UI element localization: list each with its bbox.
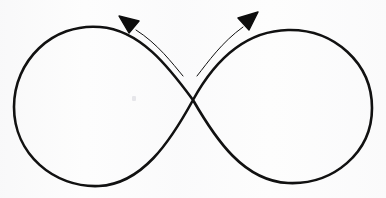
arrow-up-right-head-icon — [238, 12, 258, 30]
arrow-left-group — [119, 16, 183, 76]
infinity-diagram-svg — [0, 0, 386, 198]
lemniscate-group — [14, 27, 372, 186]
arrow-right-group — [197, 12, 258, 76]
paper-speck-artifact — [132, 96, 136, 101]
arrow-up-left-shaft — [136, 30, 183, 76]
arrow-up-right-shaft — [197, 27, 243, 76]
figure-canvas: A hand-drawn lemniscate (figure-eight / … — [0, 0, 386, 198]
infinity-curve — [14, 27, 372, 186]
